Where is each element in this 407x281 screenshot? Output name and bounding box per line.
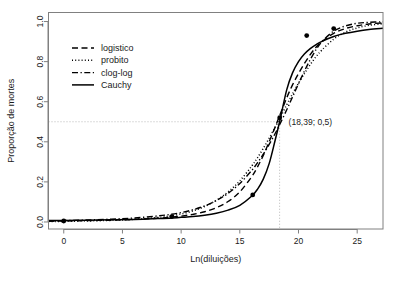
data-point <box>250 193 255 198</box>
annotations-group: (18,39; 0,5) <box>289 117 333 127</box>
x-tick-label: 5 <box>120 236 125 246</box>
x-tick-label: 20 <box>294 236 304 246</box>
data-point <box>169 214 174 219</box>
data-point <box>277 115 282 120</box>
y-axis-title: Proporção de mortes <box>6 78 16 163</box>
legend-label-logistico: logistico <box>101 43 134 53</box>
y-tick-label: 0.0 <box>36 216 46 228</box>
x-tick-label: 0 <box>61 236 66 246</box>
data-point <box>61 219 66 224</box>
chart-svg: 0510152025 0.00.20.40.60.81.0 Ln(diluiçõ… <box>0 0 407 281</box>
legend-label-probito: probito <box>101 55 129 65</box>
legend-label-cauchy: Cauchy <box>101 80 132 90</box>
y-tick-label: 0.6 <box>36 96 46 108</box>
y-tick-label: 0.2 <box>36 176 46 188</box>
x-axis-title: Ln(diluições) <box>190 254 241 264</box>
data-point <box>331 26 336 31</box>
y-tick-label: 1.0 <box>36 15 46 27</box>
x-tick-label: 15 <box>235 236 245 246</box>
x-tick-label: 25 <box>352 236 362 246</box>
y-tick-label: 0.8 <box>36 55 46 67</box>
x-tick-label: 10 <box>176 236 186 246</box>
legend-label-clog-log: clog-log <box>101 68 133 78</box>
annotation-label: (18,39; 0,5) <box>289 117 333 127</box>
chart-container: 0510152025 0.00.20.40.60.81.0 Ln(diluiçõ… <box>0 0 407 281</box>
y-tick-label: 0.4 <box>36 136 46 148</box>
data-point <box>304 33 309 38</box>
